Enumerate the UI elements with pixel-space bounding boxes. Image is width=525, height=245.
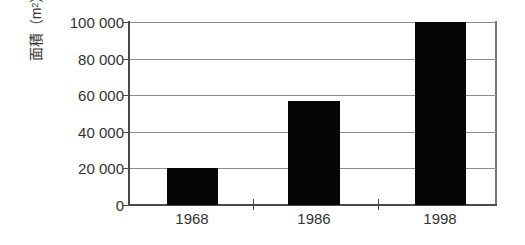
y-tick-label-100000: 100 000 bbox=[50, 14, 124, 31]
y-axis-tick-labels: 100 000 80 000 60 000 40 000 20 000 0 bbox=[46, 0, 124, 245]
y-axis-title-text: 面積（m bbox=[25, 8, 45, 62]
y-tick-mark-60000 bbox=[123, 95, 130, 96]
y-tick-mark-20000 bbox=[123, 168, 130, 169]
y-tick-label-0: 0 bbox=[50, 197, 124, 214]
y-tick-label-80000: 80 000 bbox=[50, 50, 124, 67]
y-tick-label-40000: 40 000 bbox=[50, 123, 124, 140]
bar-1986 bbox=[288, 101, 340, 205]
x-axis-tick-labels: 1968 1986 1998 bbox=[129, 210, 496, 234]
y-axis-title-close: ） bbox=[25, 0, 45, 3]
y-tick-mark-100000 bbox=[123, 22, 130, 23]
x-tick-label-1998: 1998 bbox=[395, 210, 485, 227]
bar-1968 bbox=[167, 168, 218, 205]
x-tick-label-1968: 1968 bbox=[147, 210, 237, 227]
y-tick-label-20000: 20 000 bbox=[50, 160, 124, 177]
x-tick-mark-2 bbox=[378, 199, 379, 210]
bar-1998 bbox=[415, 22, 466, 205]
x-tick-label-1986: 1986 bbox=[269, 210, 359, 227]
bar-chart-figure: 面積（m2） 100 000 80 000 60 000 40 000 20 0… bbox=[0, 0, 525, 245]
y-tick-mark-80000 bbox=[123, 59, 130, 60]
plot-area bbox=[129, 22, 496, 205]
y-axis-title: 面積（m2） bbox=[22, 0, 48, 80]
right-axis-line bbox=[495, 21, 497, 206]
y-tick-label-60000: 60 000 bbox=[50, 87, 124, 104]
y-tick-mark-0 bbox=[123, 205, 130, 206]
y-axis-line bbox=[128, 21, 130, 206]
y-tick-mark-40000 bbox=[123, 132, 130, 133]
x-tick-mark-1 bbox=[253, 199, 254, 210]
